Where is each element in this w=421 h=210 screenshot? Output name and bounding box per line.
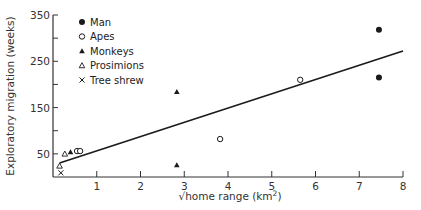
open-circle-marker	[297, 77, 302, 82]
y-tick-label: 250	[30, 55, 50, 67]
x-tick-label: 7	[356, 180, 363, 192]
filled-triangle-marker	[79, 48, 85, 53]
x-tick-label: 2	[137, 180, 144, 192]
y-axis-ticks: 50150250350	[30, 9, 58, 160]
legend-label: Tree shrew	[89, 75, 144, 86]
open-triangle-marker	[62, 151, 68, 156]
legend-label: Prosimions	[90, 60, 144, 71]
filled-triangle-marker	[174, 89, 180, 94]
filled-triangle-marker	[174, 162, 180, 167]
y-tick-label: 350	[30, 9, 50, 21]
x-tick-label: 8	[400, 180, 407, 192]
open-triangle-marker	[79, 63, 85, 68]
y-tick-label: 50	[37, 148, 50, 160]
x-axis-title: √home range (km2)	[179, 189, 282, 202]
open-circle-marker	[77, 148, 82, 153]
filled-circle-marker	[79, 19, 85, 25]
scatter-chart: 50150250350 12345678 Exploratory migrati…	[0, 0, 421, 210]
filled-triangle-marker	[68, 149, 74, 154]
x-tick-label: 6	[312, 180, 319, 192]
filled-circle-marker	[376, 27, 382, 33]
x-tick-label: 1	[93, 180, 100, 192]
legend: ManApesMonkeysProsimionsTree shrew	[79, 17, 144, 86]
legend-label: Apes	[90, 31, 115, 42]
legend-label: Monkeys	[90, 46, 134, 57]
x-marker	[80, 78, 85, 83]
filled-circle-marker	[376, 74, 382, 80]
open-circle-marker	[79, 34, 84, 39]
y-axis-title: Exploratory migration (weeks)	[4, 16, 16, 175]
x-axis-ticks: 12345678	[93, 171, 406, 192]
open-circle-marker	[217, 136, 222, 141]
open-triangle-marker	[57, 163, 63, 168]
y-tick-label: 150	[30, 102, 50, 114]
x-marker	[58, 170, 63, 175]
legend-label: Man	[90, 17, 111, 28]
